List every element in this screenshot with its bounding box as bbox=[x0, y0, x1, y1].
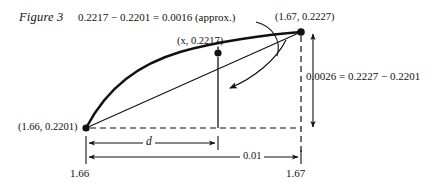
top-equation-annotation: 0.2217 − 0.2201 = 0.0016 (approx.) bbox=[78, 12, 236, 23]
tick-label-right: 1.67 bbox=[286, 168, 305, 179]
point-mid-label: (x, 0.2217) bbox=[177, 36, 223, 47]
point-right-label: (1.67, 0.2227) bbox=[275, 12, 335, 23]
right-equation-annotation: 0.0026 = 0.2227 − 0.2201 bbox=[306, 71, 420, 82]
dimension-label-width: 0.01 bbox=[240, 151, 264, 162]
data-point-left bbox=[82, 124, 89, 131]
dimension-line-width bbox=[86, 150, 301, 164]
point-left-label: (1.66, 0.2201) bbox=[18, 122, 78, 133]
data-point-mid bbox=[214, 49, 221, 56]
chord-callout-arrow bbox=[230, 40, 286, 88]
figure-caption: Figure 3 bbox=[19, 11, 64, 24]
diagram-canvas bbox=[0, 0, 435, 186]
tick-label-left: 1.66 bbox=[70, 168, 89, 179]
data-point-right bbox=[297, 28, 305, 36]
figure-diagram: Figure 3 0.2217 − 0.2201 = 0.0016 (appro… bbox=[0, 0, 435, 186]
dimension-label-d: d bbox=[143, 136, 155, 148]
